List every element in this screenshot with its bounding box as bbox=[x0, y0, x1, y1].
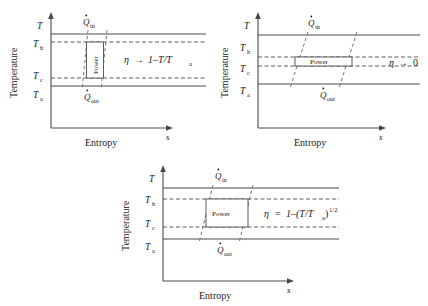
x-axis bbox=[51, 125, 173, 131]
y-tick-label-Tc: T c bbox=[145, 219, 155, 231]
svg-text:T: T bbox=[149, 174, 155, 184]
svg-text:Temperature: Temperature bbox=[219, 47, 230, 98]
heat-in-label: Q in bbox=[215, 169, 227, 183]
y-tick-label-Tc: T c bbox=[240, 64, 250, 76]
svg-text:h: h bbox=[40, 44, 44, 51]
svg-text:h: h bbox=[152, 200, 156, 207]
svg-text:c: c bbox=[152, 224, 155, 231]
svg-text:Power: Power bbox=[310, 58, 329, 66]
efficiency-expression: η → 0 bbox=[389, 57, 418, 68]
svg-text:h: h bbox=[247, 48, 251, 55]
svg-text:T: T bbox=[244, 21, 250, 31]
svg-text:s: s bbox=[287, 285, 291, 295]
svg-text:T: T bbox=[33, 71, 39, 81]
y-tick-label-T: T bbox=[244, 21, 250, 31]
svg-text:T: T bbox=[33, 39, 39, 49]
svg-text:s: s bbox=[166, 132, 170, 142]
y-tick-label-Th: T h bbox=[145, 195, 156, 207]
y-axis bbox=[48, 12, 54, 128]
y-tick-label-Th: T h bbox=[33, 39, 44, 51]
svg-text:Power: Power bbox=[212, 210, 231, 218]
svg-text:Temperature: Temperature bbox=[120, 200, 131, 251]
y-tick-label-Ta: T a bbox=[240, 86, 250, 98]
y-tick-label-Ta: T a bbox=[33, 90, 43, 102]
svg-text:in: in bbox=[90, 22, 95, 29]
x-axis bbox=[163, 278, 294, 284]
svg-text:T: T bbox=[240, 86, 246, 96]
svg-text:η: η bbox=[264, 208, 269, 219]
svg-text:out: out bbox=[91, 97, 99, 104]
svg-text:out: out bbox=[224, 250, 232, 257]
y-axis bbox=[255, 12, 261, 128]
svg-text:s: s bbox=[379, 132, 383, 142]
svg-text:Q: Q bbox=[83, 17, 90, 27]
svg-text:1–T/T: 1–T/T bbox=[148, 54, 173, 65]
x-axis-symbol: s bbox=[166, 132, 170, 142]
x-axis-symbol: s bbox=[287, 285, 291, 295]
power-box: Power bbox=[206, 199, 248, 227]
y-axis bbox=[160, 165, 166, 281]
power-box: Power bbox=[87, 42, 104, 78]
y-axis-title: Temperature bbox=[8, 47, 19, 98]
svg-text:T: T bbox=[240, 64, 246, 74]
x-axis-title: Entropy bbox=[199, 290, 231, 301]
svg-text:c: c bbox=[247, 69, 250, 76]
y-tick-label-Th: T h bbox=[240, 43, 251, 55]
x-axis-symbol: s bbox=[379, 132, 383, 142]
svg-text:0: 0 bbox=[413, 57, 418, 68]
svg-text:1–(T/T: 1–(T/T bbox=[286, 208, 315, 220]
svg-text:c: c bbox=[40, 76, 43, 83]
svg-text:T: T bbox=[145, 195, 151, 205]
y-axis-title: Temperature bbox=[120, 200, 131, 251]
svg-text:Q: Q bbox=[84, 92, 91, 102]
svg-text:Q: Q bbox=[308, 18, 315, 28]
panel-reversible-limit: Temperature T T h T c T a bbox=[0, 0, 214, 153]
heat-in-label: Q in bbox=[308, 16, 320, 30]
svg-text:a: a bbox=[189, 60, 192, 67]
svg-text:T: T bbox=[145, 242, 151, 252]
panel-max-power: Temperature T T h T c T a bbox=[107, 153, 347, 306]
y-tick-label-Tc: T c bbox=[33, 71, 43, 83]
heat-out-label: Q out bbox=[320, 88, 335, 102]
y-tick-label-T: T bbox=[37, 21, 43, 31]
x-axis-title: Entropy bbox=[85, 137, 117, 148]
heat-in-label: Q in bbox=[83, 15, 95, 29]
svg-text:): ) bbox=[325, 208, 328, 220]
svg-text:a: a bbox=[40, 95, 43, 102]
svg-text:Entropy: Entropy bbox=[199, 290, 231, 301]
x-axis-title: Entropy bbox=[294, 137, 326, 148]
svg-text:a: a bbox=[152, 247, 155, 254]
svg-text:in: in bbox=[222, 176, 227, 183]
svg-text:η: η bbox=[124, 54, 129, 65]
svg-text:Q: Q bbox=[215, 171, 222, 181]
svg-text:a: a bbox=[247, 91, 250, 98]
svg-text:=: = bbox=[275, 208, 281, 219]
heat-out-label: Q out bbox=[217, 243, 232, 257]
svg-text:Temperature: Temperature bbox=[8, 47, 19, 98]
svg-text:→: → bbox=[134, 54, 144, 65]
svg-text:Power: Power bbox=[92, 55, 100, 74]
y-axis-title: Temperature bbox=[219, 47, 230, 98]
svg-text:η: η bbox=[389, 57, 394, 68]
x-axis bbox=[258, 125, 386, 131]
svg-text:T: T bbox=[240, 43, 246, 53]
panel-zero-efficiency: Temperature T T h T c T a bbox=[214, 0, 428, 153]
svg-text:T: T bbox=[33, 90, 39, 100]
svg-text:→: → bbox=[398, 57, 408, 68]
svg-text:Entropy: Entropy bbox=[85, 137, 117, 148]
svg-text:Q: Q bbox=[217, 245, 224, 255]
svg-text:Entropy: Entropy bbox=[294, 137, 326, 148]
heat-out-label: Q out bbox=[84, 90, 99, 104]
svg-text:T: T bbox=[37, 21, 43, 31]
svg-text:in: in bbox=[315, 23, 320, 30]
svg-text:T: T bbox=[145, 219, 151, 229]
power-box: Power bbox=[295, 57, 352, 66]
svg-text:Q: Q bbox=[320, 90, 327, 100]
y-tick-label-T: T bbox=[149, 174, 155, 184]
y-tick-label-Ta: T a bbox=[145, 242, 155, 254]
efficiency-expression: η → 1–T/T a bbox=[124, 54, 192, 67]
svg-text:out: out bbox=[327, 95, 335, 102]
svg-text:1/2: 1/2 bbox=[329, 206, 337, 213]
efficiency-expression: η = 1–(T/T a ) 1/2 bbox=[264, 206, 337, 221]
